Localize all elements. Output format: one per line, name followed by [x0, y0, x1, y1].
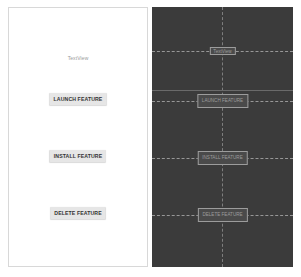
install-feature-button[interactable]: INSTALL FEATURE [50, 150, 106, 162]
divider-line [152, 90, 293, 91]
launch-feature-button[interactable]: LAUNCH FEATURE [50, 93, 107, 105]
textview-label[interactable]: TextView [9, 55, 147, 61]
delete-feature-button[interactable]: DELETE FEATURE [50, 207, 105, 219]
design-surface[interactable]: TextView LAUNCH FEATURE INSTALL FEATURE … [8, 7, 148, 267]
blueprint-surface[interactable]: TextView LAUNCH FEATURE INSTALL FEATURE … [152, 7, 293, 267]
blueprint-install-feature-button[interactable]: INSTALL FEATURE [197, 151, 248, 165]
layout-editor: TextView LAUNCH FEATURE INSTALL FEATURE … [0, 0, 301, 277]
vertical-center-guideline [222, 7, 223, 267]
blueprint-delete-feature-button[interactable]: DELETE FEATURE [197, 208, 247, 222]
blueprint-textview[interactable]: TextView [209, 47, 235, 55]
blueprint-launch-feature-button[interactable]: LAUNCH FEATURE [197, 94, 248, 108]
